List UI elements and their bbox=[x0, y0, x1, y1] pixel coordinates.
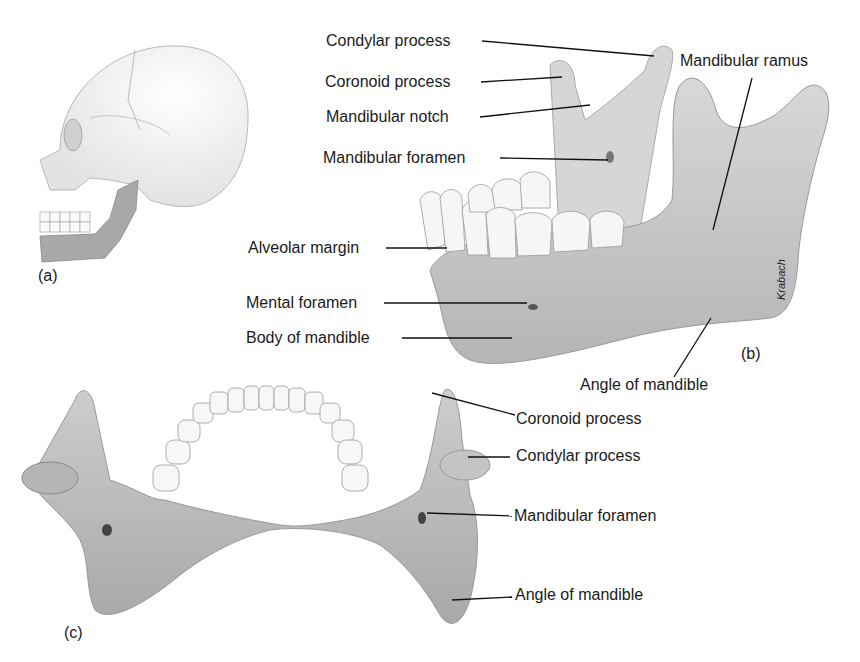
panel-label-b: (b) bbox=[741, 345, 761, 363]
mandible-superior-view bbox=[22, 386, 490, 623]
label-coronoid-process-b: Coronoid process bbox=[325, 73, 450, 91]
mandible-illustration bbox=[0, 0, 860, 662]
illustrator-credit: Krabach bbox=[775, 259, 787, 300]
label-coronoid-process-c: Coronoid process bbox=[516, 410, 641, 428]
panel-label-c: (c) bbox=[64, 624, 83, 642]
label-mandibular-foramen-c: Mandibular foramen bbox=[514, 507, 656, 525]
label-mandibular-foramen-b: Mandibular foramen bbox=[323, 149, 465, 167]
mandible-lateral-view bbox=[420, 46, 829, 363]
label-body-of-mandible: Body of mandible bbox=[246, 329, 370, 347]
label-mental-foramen: Mental foramen bbox=[246, 294, 357, 312]
label-condylar-process-c: Condylar process bbox=[516, 447, 641, 465]
label-alveolar-margin: Alveolar margin bbox=[248, 239, 359, 257]
label-angle-of-mandible-b: Angle of mandible bbox=[580, 376, 708, 394]
skull-lateral-view bbox=[40, 46, 248, 262]
label-angle-of-mandible-c: Angle of mandible bbox=[515, 586, 643, 604]
panel-label-a: (a) bbox=[38, 267, 58, 285]
label-condylar-process-b: Condylar process bbox=[326, 32, 451, 50]
label-mandibular-ramus: Mandibular ramus bbox=[680, 52, 808, 70]
label-mandibular-notch-b: Mandibular notch bbox=[326, 108, 449, 126]
